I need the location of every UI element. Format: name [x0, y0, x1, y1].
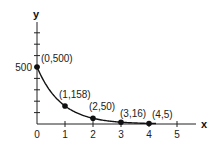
data-point: [118, 119, 124, 125]
x-tick-label: 1: [62, 129, 68, 140]
x-axis-label: x: [201, 118, 208, 130]
data-points: (0,500)(1,158)(2,50)(3,16)(4,5): [34, 53, 172, 126]
point-label: (1,158): [59, 89, 91, 100]
data-point: [34, 64, 40, 70]
data-point: [146, 121, 152, 127]
x-tick-label: 5: [174, 129, 180, 140]
x-tick-label: 3: [118, 129, 124, 140]
point-label: (3,16): [120, 108, 146, 119]
x-tick-label: 2: [90, 129, 96, 140]
y-tick-label: 500: [15, 62, 32, 73]
data-point: [90, 116, 96, 122]
y-ticks: 500: [15, 33, 40, 113]
chart: 012345 500 (0,500)(1,158)(2,50)(3,16)(4,…: [0, 0, 215, 150]
x-tick-label: 0: [34, 129, 40, 140]
y-axis-label: y: [33, 8, 40, 20]
x-tick-label: 4: [146, 129, 152, 140]
point-label: (0,500): [41, 53, 73, 64]
point-label: (2,50): [89, 101, 115, 112]
data-point: [62, 103, 68, 109]
point-label: (4,5): [152, 109, 173, 120]
